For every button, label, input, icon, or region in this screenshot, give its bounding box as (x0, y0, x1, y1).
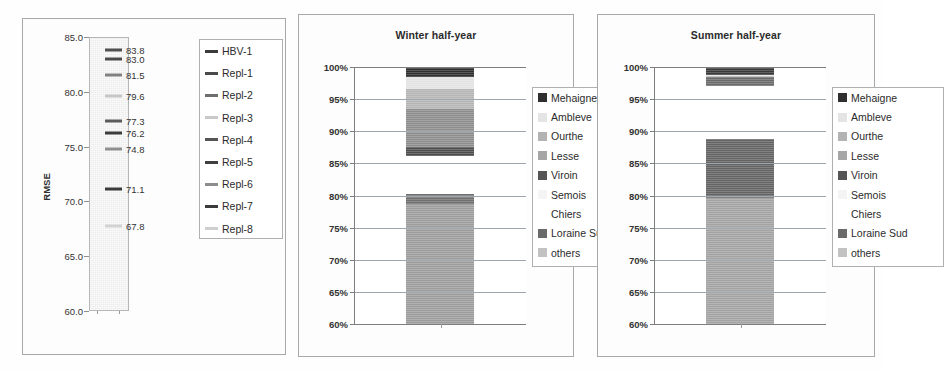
legend-swatch-icon (838, 229, 847, 238)
rmse-y-tick (84, 37, 89, 38)
bar-segment-ambleve (406, 77, 474, 89)
gridline (355, 260, 526, 261)
bar-segment-loraine-sud (706, 139, 774, 198)
y-tick-label: 80% (329, 190, 348, 201)
legend-swatch-icon (538, 132, 547, 141)
legend-label: Mehaigne (851, 92, 897, 104)
legend-item[interactable]: Repl-6 (200, 173, 282, 195)
y-tick (350, 67, 355, 68)
legend-label: others (851, 247, 880, 259)
legend-swatch-icon (205, 116, 218, 119)
legend-item[interactable]: Viroin (833, 166, 943, 185)
legend-swatch-icon (205, 205, 218, 208)
category-tick (441, 324, 442, 328)
y-tick-label: 70% (329, 254, 348, 265)
legend-item[interactable]: Repl-1 (200, 62, 282, 84)
rmse-marker-label: 67.8 (126, 220, 145, 231)
legend-item[interactable]: Lesse (833, 146, 943, 165)
gridline (655, 196, 826, 197)
legend-label: Repl-3 (222, 112, 253, 124)
legend-swatch-icon (838, 93, 847, 102)
y-tick-label: 90% (329, 126, 348, 137)
legend-swatch-icon (538, 190, 547, 199)
summer-chart-title: Summer half-year (598, 29, 874, 41)
gridline (655, 228, 826, 229)
rmse-y-tick-label: 85.0 (65, 32, 84, 43)
rmse-y-tick-label: 80.0 (65, 86, 84, 97)
legend-item[interactable]: Ambleve (833, 107, 943, 126)
legend-item[interactable]: Mehaigne (833, 88, 943, 107)
y-tick (650, 324, 655, 325)
y-tick (650, 228, 655, 229)
legend-item[interactable]: Semois (833, 185, 943, 204)
y-tick (650, 292, 655, 293)
gridline (655, 131, 826, 132)
summer-panel: Summer half-year 60%65%70%75%80%85%90%95… (597, 14, 875, 357)
rmse-marker (105, 120, 122, 123)
rmse-marker-label: 77.3 (126, 116, 145, 127)
y-axis-title: RMSE (41, 173, 52, 200)
rmse-marker-label: 74.8 (126, 143, 145, 154)
legend-label: others (551, 247, 580, 259)
y-tick (350, 228, 355, 229)
y-tick (650, 260, 655, 261)
y-tick-label: 60% (329, 319, 348, 330)
rmse-marker (105, 132, 122, 135)
gridline (655, 163, 826, 164)
y-tick (650, 163, 655, 164)
legend-swatch-icon (838, 113, 847, 122)
rmse-marker (105, 49, 122, 52)
rmse-y-tick-label: 75.0 (65, 141, 84, 152)
legend-label: Repl-6 (222, 178, 253, 190)
legend-label: Viroin (851, 169, 878, 181)
bar-segment-lesse (406, 109, 474, 146)
y-tick-label: 85% (329, 158, 348, 169)
rmse-marker (105, 95, 122, 98)
legend-item[interactable]: Chiers (833, 204, 943, 223)
summer-plot-area: 60%65%70%75%80%85%90%95%100% (654, 67, 826, 325)
legend-swatch-icon (538, 171, 547, 180)
bar-segment-mehaigne (406, 67, 474, 77)
legend-swatch-icon (838, 151, 847, 160)
y-tick-label: 85% (629, 158, 648, 169)
legend-item[interactable]: Repl-4 (200, 129, 282, 151)
bar-segment-ourthe (706, 76, 774, 77)
legend-item[interactable]: Ourthe (833, 127, 943, 146)
summer-legend: MehaigneAmbleveOurtheLesseViroinSemoisCh… (832, 87, 944, 267)
legend-item[interactable]: Repl-5 (200, 151, 282, 173)
y-tick-label: 60% (629, 319, 648, 330)
gridline (355, 228, 526, 229)
legend-label: Repl-5 (222, 156, 253, 168)
y-tick (350, 131, 355, 132)
legend-label: Ourthe (851, 130, 883, 142)
y-tick (350, 163, 355, 164)
legend-item[interactable]: Repl-3 (200, 107, 282, 129)
rmse-plot-area (89, 37, 129, 311)
legend-swatch-icon (538, 229, 547, 238)
legend-label: Ambleve (851, 111, 892, 123)
legend-swatch-icon (205, 227, 218, 230)
winter-plot-area: 60%65%70%75%80%85%90%95%100% (354, 67, 526, 325)
rmse-marker (105, 57, 122, 60)
y-tick (350, 99, 355, 100)
legend-item[interactable]: HBV-1 (200, 40, 282, 62)
legend-label: Mehaigne (551, 92, 597, 104)
gridline (355, 67, 526, 68)
legend-item[interactable]: others (833, 243, 943, 262)
rmse-marker-label: 79.6 (126, 91, 145, 102)
y-tick-label: 100% (324, 62, 348, 73)
legend-item[interactable]: Repl-7 (200, 195, 282, 217)
legend-label: Viroin (551, 169, 578, 181)
legend-item[interactable]: Loraine Sud (833, 224, 943, 243)
winter-chart-title: Winter half-year (299, 29, 573, 41)
legend-item[interactable]: Repl-8 (200, 218, 282, 240)
bar-segment-lesse (706, 77, 774, 86)
legend-label: Semois (851, 189, 886, 201)
legend-item[interactable]: Repl-2 (200, 84, 282, 106)
rmse-marker-label: 81.5 (126, 70, 145, 81)
y-tick-label: 90% (629, 126, 648, 137)
rmse-y-tick (84, 92, 89, 93)
gridline (655, 260, 826, 261)
y-tick-label: 75% (629, 222, 648, 233)
y-tick-label: 95% (629, 94, 648, 105)
